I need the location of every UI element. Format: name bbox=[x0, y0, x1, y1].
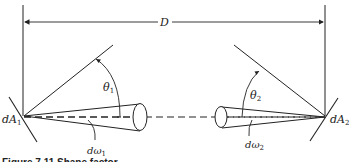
solid-angle-1-leader bbox=[88, 120, 95, 140]
shape-factor-diagram: D θ1 dω1 dA1 θ2 dω2 dA2 F bbox=[0, 0, 349, 162]
surface-1-label: dA1 bbox=[2, 113, 21, 127]
cone-2-base bbox=[215, 107, 227, 128]
surface-1-normal bbox=[24, 45, 113, 116]
cone-1-base bbox=[133, 104, 147, 131]
solid-angle-2-label: dω2 bbox=[245, 139, 264, 152]
surface-2: θ2 dω2 dA2 bbox=[215, 45, 349, 152]
angle-1-label: θ1 bbox=[103, 81, 114, 95]
figure-caption: Figure 7.11 Shape factor bbox=[2, 157, 118, 162]
angle-2-label: θ2 bbox=[250, 89, 261, 103]
distance-dimension: D bbox=[25, 16, 323, 29]
surface-1: θ1 dω1 dA1 bbox=[2, 45, 147, 158]
distance-label: D bbox=[159, 16, 169, 29]
surface-2-label: dA2 bbox=[330, 113, 349, 127]
surface-2-normal bbox=[234, 45, 325, 116]
solid-angle-2-leader bbox=[249, 120, 252, 136]
